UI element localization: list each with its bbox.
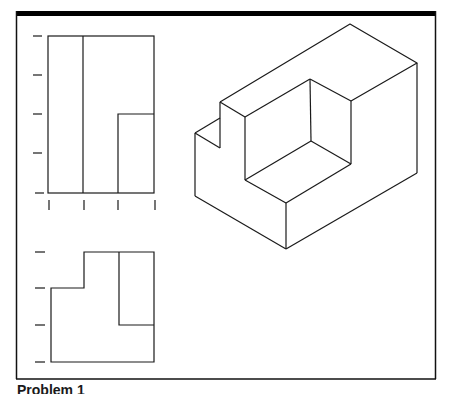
sheet-frame: [16, 11, 436, 379]
top-view-bottom-ticks: [49, 200, 155, 210]
drawing-sheet: [0, 0, 451, 394]
top-view-left-ticks: [33, 36, 44, 193]
figure-caption: Problem 1: [17, 383, 85, 394]
front-view: [35, 252, 154, 362]
front-view-left-ticks: [35, 252, 45, 362]
frame-top-bar: [16, 11, 436, 16]
isometric-view: [195, 24, 417, 249]
top-view: [33, 36, 155, 210]
